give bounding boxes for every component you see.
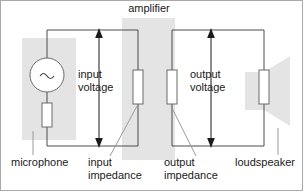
diagram-canvas: amplifier input voltage output voltage m… (0, 0, 304, 192)
loudspeaker-resistor (259, 70, 269, 104)
microphone-internal-resistor (42, 103, 52, 127)
input-impedance-label-line1: input (88, 156, 112, 169)
output-impedance-label-line2: impedance (164, 169, 218, 182)
output-voltage-label-line2: voltage (190, 81, 225, 94)
input-impedance-label-line2: impedance (88, 169, 142, 182)
input-voltage-label-line2: voltage (78, 81, 113, 94)
microphone-label: microphone (11, 156, 68, 169)
output-voltage-label-line1: output (190, 68, 221, 81)
loudspeaker-label: loudspeaker (235, 156, 295, 169)
input-voltage-label-line1: input (78, 68, 102, 81)
output-impedance-resistor (167, 70, 177, 104)
ac-source-circle (30, 58, 64, 92)
output-impedance-label-line1: output (164, 156, 195, 169)
amplifier-label: amplifier (122, 2, 176, 15)
input-impedance-resistor (133, 70, 143, 104)
